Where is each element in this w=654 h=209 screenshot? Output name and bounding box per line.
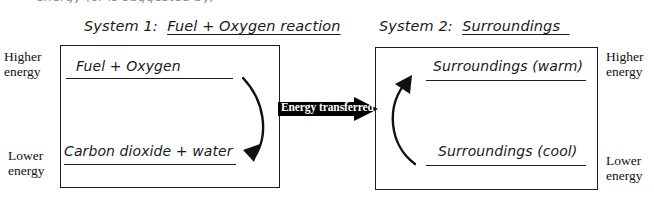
higher-energy-line-2: energy [4,64,42,79]
higher-energy-line-2: energy [606,64,644,79]
higher-energy-line-1: Higher [606,49,644,64]
system-2-title-subject: Surroundings [462,18,569,34]
energy-transfer-diagram: energy (or is suggested by) System 1: Fu… [0,0,654,209]
upward-curved-arrow [382,64,428,172]
system-1-top-level-label: Fuel + Oxygen [76,58,181,74]
system-1-lower-energy-label: Lower energy [8,148,45,178]
system-1-title: System 1: Fuel + Oxygen reaction [84,18,341,34]
clipped-top-text: energy (or is suggested by) [36,0,336,3]
system-2-top-level-rule [426,80,586,81]
system-1-title-prefix: System 1: [84,18,162,34]
system-2-title-prefix: System 2: [379,18,457,34]
lower-energy-line-1: Lower [606,153,643,168]
lower-energy-line-1: Lower [8,148,45,163]
energy-transferred-label: Energy transferred [281,101,374,113]
system-1-bottom-level-label: Carbon dioxide + water [64,143,233,159]
energy-transferred-arrow: Energy transferred [278,97,378,121]
system-2-top-level-label: Surroundings (warm) [433,58,583,74]
system-2-bottom-level-rule [426,165,586,166]
higher-energy-line-1: Higher [4,49,42,64]
system-1-top-level-rule [66,78,233,79]
system-2-title: System 2: Surroundings [379,18,570,34]
system-2-higher-energy-label: Higher energy [606,49,644,79]
lower-energy-line-2: energy [606,168,643,183]
lower-energy-line-2: energy [8,163,45,178]
system-1-bottom-level-rule [64,164,236,165]
downward-curved-arrow [230,66,280,176]
system-1-higher-energy-label: Higher energy [4,49,42,79]
system-2-bottom-level-label: Surroundings (cool) [438,143,577,159]
system-2-lower-energy-label: Lower energy [606,153,643,183]
system-1-title-subject: Fuel + Oxygen reaction [167,18,340,34]
